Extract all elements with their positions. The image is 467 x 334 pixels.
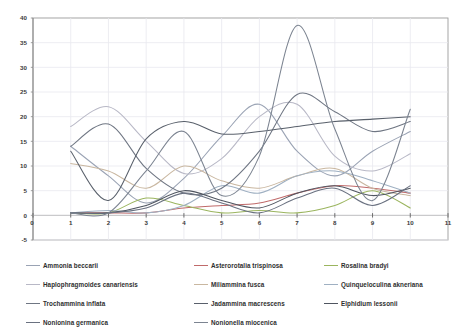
legend-color-swatch bbox=[324, 284, 338, 285]
svg-text:15: 15 bbox=[20, 138, 27, 145]
legend-color-swatch bbox=[26, 265, 40, 266]
legend-item-label: Miliammina fusca bbox=[211, 281, 264, 288]
legend-item-label: Rosalina bradyi bbox=[341, 262, 389, 269]
legend-color-swatch bbox=[26, 303, 40, 304]
legend-item-label: Trochammina inflata bbox=[43, 300, 105, 307]
svg-text:11: 11 bbox=[445, 219, 452, 226]
legend-item-label: Asterorotalia trispinosa bbox=[211, 262, 283, 269]
svg-text:35: 35 bbox=[20, 39, 27, 46]
svg-text:9: 9 bbox=[371, 219, 375, 226]
plot-background bbox=[33, 18, 448, 240]
legend-color-swatch bbox=[194, 284, 208, 285]
svg-text:2: 2 bbox=[107, 219, 111, 226]
legend-color-swatch bbox=[194, 322, 208, 323]
svg-text:5: 5 bbox=[220, 219, 224, 226]
legend-item[interactable]: Ammonia beccarii bbox=[26, 262, 194, 269]
legend-color-swatch bbox=[324, 265, 338, 266]
svg-text:20: 20 bbox=[20, 113, 27, 120]
legend-item-label: Ammonia beccarii bbox=[43, 262, 98, 269]
legend-item-label: Jadammina macrescens bbox=[211, 300, 285, 307]
legend-item[interactable]: Trochammina inflata bbox=[26, 300, 194, 307]
legend-color-swatch bbox=[194, 265, 208, 266]
svg-text:3: 3 bbox=[144, 219, 148, 226]
legend-item-label: Nonionina germanica bbox=[43, 319, 108, 326]
svg-text:40: 40 bbox=[20, 14, 27, 21]
legend-item[interactable]: Nonionina germanica bbox=[26, 319, 194, 326]
chart-legend: Ammonia beccariiAsterorotalia trispinosa… bbox=[26, 256, 460, 332]
legend-item[interactable]: Nonionella miocenica bbox=[194, 319, 324, 326]
svg-text:0: 0 bbox=[24, 212, 28, 219]
legend-color-swatch bbox=[324, 303, 338, 304]
legend-item-label: Nonionella miocenica bbox=[211, 319, 277, 326]
legend-item[interactable]: Rosalina bradyi bbox=[324, 262, 460, 269]
legend-color-swatch bbox=[26, 284, 40, 285]
svg-text:10: 10 bbox=[20, 162, 27, 169]
legend-item-label: Quinqueloculina akneriana bbox=[341, 281, 423, 288]
svg-text:6: 6 bbox=[258, 219, 262, 226]
svg-text:30: 30 bbox=[20, 64, 27, 71]
legend-color-swatch bbox=[194, 303, 208, 304]
svg-text:8: 8 bbox=[333, 219, 337, 226]
legend-color-swatch bbox=[26, 322, 40, 323]
legend-item[interactable]: Haplophragmoides canariensis bbox=[26, 281, 194, 288]
svg-text:5: 5 bbox=[24, 187, 28, 194]
legend-item[interactable]: Elphidium lessonii bbox=[324, 300, 460, 307]
legend-item-label: Haplophragmoides canariensis bbox=[43, 281, 138, 288]
svg-text:10: 10 bbox=[407, 219, 414, 226]
svg-text:1: 1 bbox=[69, 219, 73, 226]
legend-item-label: Elphidium lessonii bbox=[341, 300, 398, 307]
svg-text:7: 7 bbox=[295, 219, 299, 226]
legend-item[interactable]: Quinqueloculina akneriana bbox=[324, 281, 460, 288]
legend-item[interactable]: Asterorotalia trispinosa bbox=[194, 262, 324, 269]
svg-text:4: 4 bbox=[182, 219, 186, 226]
legend-item[interactable]: Jadammina macrescens bbox=[194, 300, 324, 307]
svg-text:0: 0 bbox=[30, 219, 34, 226]
legend-item[interactable]: Miliammina fusca bbox=[194, 281, 324, 288]
chart-container: -5051015202530354001234567891011 Ammonia… bbox=[0, 0, 467, 334]
svg-text:-5: -5 bbox=[21, 236, 27, 243]
svg-text:25: 25 bbox=[20, 88, 27, 95]
